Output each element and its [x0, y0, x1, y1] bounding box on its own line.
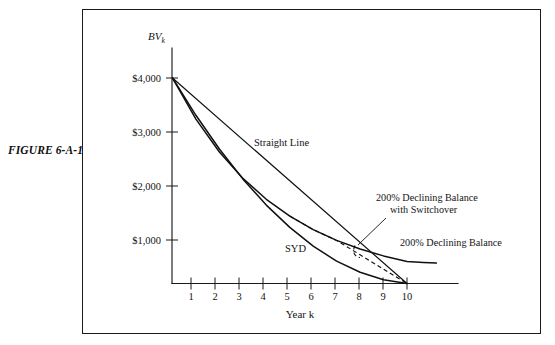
x-tick-label-7: 7: [332, 291, 337, 302]
leader-line-db-switchover: [358, 218, 386, 245]
y-tick-label-2000: $2,000: [132, 181, 161, 192]
y-axis-title: BVk: [148, 30, 165, 45]
series-declining-balance: [173, 78, 437, 263]
y-tick-label-3000: $3,000: [132, 127, 161, 138]
series-label-declining-balance: 200% Declining Balance: [400, 237, 502, 248]
y-axis-tick-labels: $4,000 $3,000 $2,000 $1,000: [132, 73, 161, 246]
x-tick-label-3: 3: [236, 291, 241, 302]
y-tick-label-1000: $1,000: [132, 235, 161, 246]
x-tick-label-5: 5: [284, 291, 289, 302]
series-label-db-switchover-line1: 200% Declining Balance: [376, 192, 478, 203]
y-axis-title-subscript: k: [161, 36, 165, 45]
x-tick-label-8: 8: [356, 291, 361, 302]
depreciation-book-value-chart: $4,000 $3,000 $2,000 $1,000 BVk 1 2 3 4: [0, 0, 555, 345]
x-axis-tick-labels: 1 2 3 4 5 6 7 8 9 10: [188, 291, 412, 302]
x-axis-title-text: Year k: [286, 308, 315, 320]
x-tick-label-10: 10: [402, 291, 413, 302]
series-label-syd: SYD: [285, 243, 306, 254]
x-axis-title: Year k: [286, 308, 315, 320]
x-tick-label-1: 1: [188, 291, 193, 302]
y-tick-label-4000: $4,000: [132, 73, 161, 84]
x-tick-label-9: 9: [380, 291, 385, 302]
x-tick-label-4: 4: [260, 291, 266, 302]
x-tick-label-6: 6: [308, 291, 313, 302]
figure-container: FIGURE 6-A-1 $4,000 $3,000 $2,000 $1,000…: [0, 0, 555, 345]
series-label-db-switchover-line2: with Switchover: [390, 204, 458, 215]
series-label-straight-line: Straight Line: [254, 137, 309, 148]
x-tick-label-2: 2: [212, 291, 217, 302]
